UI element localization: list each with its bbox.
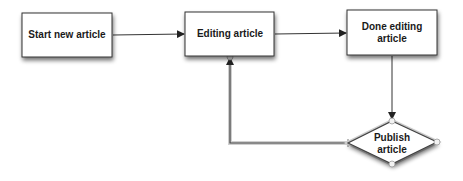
selection-handle-right[interactable] bbox=[434, 139, 440, 145]
node-label-line-2: article bbox=[377, 144, 407, 155]
edge-publish-to-editing-selected[interactable] bbox=[227, 54, 352, 147]
node-label-line-2: article bbox=[377, 33, 407, 44]
flowchart-canvas: Start new article Editing article Done e… bbox=[0, 0, 463, 181]
selection-handle-top[interactable] bbox=[389, 118, 395, 124]
edge-editing-to-done[interactable] bbox=[275, 33, 346, 34]
node-label-line-1: Done editing bbox=[362, 21, 423, 32]
node-start-new-article[interactable]: Start new article bbox=[22, 13, 112, 57]
node-label: Editing article bbox=[197, 28, 264, 39]
node-publish-article-decision[interactable]: Publish article bbox=[348, 118, 440, 167]
node-done-editing-article[interactable]: Done editing article bbox=[347, 10, 437, 55]
selection-handle-bottom[interactable] bbox=[389, 161, 395, 167]
edge-start-to-editing[interactable] bbox=[113, 34, 184, 35]
node-label-line-1: Publish bbox=[374, 132, 410, 143]
node-label: Start new article bbox=[28, 29, 106, 40]
node-editing-article[interactable]: Editing article bbox=[185, 12, 274, 56]
